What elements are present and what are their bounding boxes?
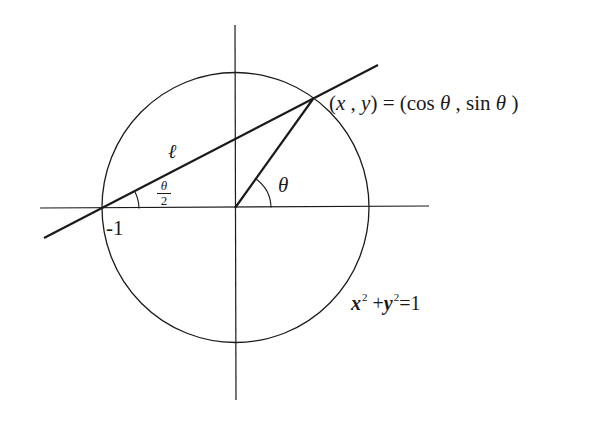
theta-symbol: θ [496, 91, 506, 115]
neg-one-label: -1 [106, 218, 124, 239]
half-theta-angle-arc [135, 192, 139, 209]
paren: ) [506, 91, 518, 115]
paren: ( [329, 91, 336, 115]
comma: , [345, 91, 361, 115]
fraction-numerator: θ [161, 180, 167, 192]
y-axis [235, 25, 236, 400]
circle-equation-label: x2 +y2=1 [351, 292, 420, 313]
theta-angle-arc [256, 179, 271, 208]
theta-angle-label: θ [278, 175, 288, 196]
var-x: x [351, 292, 361, 314]
var-y: y [384, 292, 393, 314]
half-theta-label: θ 2 [157, 180, 171, 207]
var-x: x [336, 91, 345, 115]
theta-symbol: θ [440, 91, 450, 115]
line-l-label: ℓ [168, 141, 176, 161]
equals-one: =1 [399, 292, 420, 314]
var-y: y [361, 91, 370, 115]
line-l [44, 65, 378, 238]
plus-sign: + [368, 292, 384, 314]
radius-to-point [235, 99, 313, 208]
comma-sin: , sin [450, 91, 496, 115]
fraction-denominator: 2 [161, 195, 168, 207]
equals-cos: ) = (cos [370, 91, 440, 115]
unit-circle-diagram [0, 0, 590, 422]
point-coordinates-label: (x , y) = (cos θ , sin θ ) [329, 93, 518, 114]
